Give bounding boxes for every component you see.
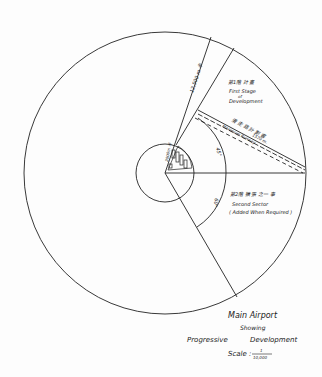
- first-stage-label-1: First Stage: [229, 88, 256, 95]
- airport-plan-drawing: 12,500 m 半 第1階 計 畫 First Stage of Develo…: [0, 0, 322, 377]
- title-line-3b: Development: [250, 336, 297, 344]
- second-sector-label-1: Second Sector: [232, 201, 269, 207]
- terminal-fan: [168, 146, 192, 170]
- title-line-1: Main Airport: [228, 311, 278, 320]
- title-line-2: Showing: [240, 324, 266, 332]
- scale-numerator: 1: [260, 348, 263, 353]
- angle-arc-lower: [197, 173, 226, 227]
- scale-label: Scale :: [228, 350, 251, 358]
- second-sector-label-2: ( Added When Required ): [229, 209, 292, 216]
- first-stage-label-3: Development: [229, 98, 264, 105]
- scale-denominator: 10,000: [253, 355, 267, 360]
- radial-line-first-stage: [176, 48, 234, 145]
- title-line-3a: Progressive: [187, 336, 228, 344]
- second-sector-cjk-label: 第2階 擴 張 之一 事: [230, 191, 276, 197]
- radial-line-southeast: [165, 173, 237, 297]
- plan-canvas: 12,500 m 半 第1階 計 畫 First Stage of Develo…: [0, 0, 322, 377]
- radius-dimension-label: 12,500 m 半: [188, 62, 204, 94]
- angle-upper-label: 45°: [215, 147, 223, 158]
- first-stage-cjk-label: 第1階 計 畫: [228, 79, 255, 85]
- angle-lower-label: 60°: [212, 198, 220, 208]
